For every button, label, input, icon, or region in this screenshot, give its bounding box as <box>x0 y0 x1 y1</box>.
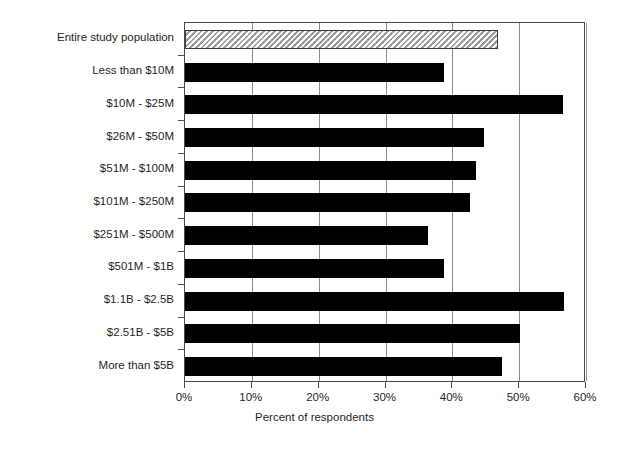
bar-row <box>185 318 584 351</box>
bar-entire-study-population <box>185 30 498 49</box>
category-label: Entire study population <box>0 32 174 44</box>
x-axis-tick-label: 20% <box>288 392 348 404</box>
bar-2-51b-5b <box>185 324 520 343</box>
x-axis-tick-label: 30% <box>355 392 415 404</box>
plot-area <box>184 22 585 382</box>
category-label: $101M - $250M <box>0 196 174 208</box>
x-axis-tick <box>251 382 252 388</box>
bar-row <box>185 23 584 56</box>
x-axis-tick-label: 60% <box>555 392 615 404</box>
bar-less-than-10m <box>185 63 444 82</box>
x-axis-tick-label: 50% <box>488 392 548 404</box>
bar-26m-50m <box>185 128 484 147</box>
x-axis-tick <box>585 382 586 388</box>
bar-chart-figure: Entire study populationLess than $10M$10… <box>0 0 629 452</box>
category-label: $251M - $500M <box>0 229 174 241</box>
gridline-60pct <box>586 23 587 381</box>
bar-row <box>185 285 584 318</box>
category-label: Less than $10M <box>0 65 174 77</box>
bar-more-than-5b <box>185 357 502 376</box>
x-axis-tick <box>184 382 185 388</box>
category-label: $501M - $1B <box>0 261 174 273</box>
bar-10m-25m <box>185 95 563 114</box>
bar-row <box>185 154 584 187</box>
bar-1-1b-2-5b <box>185 292 564 311</box>
category-label: $2.51B - $5B <box>0 327 174 339</box>
category-label: $10M - $25M <box>0 98 174 110</box>
bar-51m-100m <box>185 161 476 180</box>
bar-row <box>185 56 584 89</box>
x-axis-tick-label: 0% <box>154 392 214 404</box>
x-axis-tick <box>451 382 452 388</box>
bar-rows <box>185 23 584 381</box>
x-axis-tick <box>318 382 319 388</box>
x-axis-tick-label: 10% <box>221 392 281 404</box>
bar-row <box>185 187 584 220</box>
bar-row <box>185 350 584 383</box>
category-label: More than $5B <box>0 360 174 372</box>
bar-251m-500m <box>185 226 428 245</box>
category-label: $26M - $50M <box>0 131 174 143</box>
x-axis-tick <box>518 382 519 388</box>
category-label: $51M - $100M <box>0 163 174 175</box>
x-axis-tick-label: 40% <box>421 392 481 404</box>
bar-101m-250m <box>185 193 470 212</box>
bar-row <box>185 88 584 121</box>
x-axis-title: Percent of respondents <box>0 411 629 423</box>
bar-row <box>185 219 584 252</box>
category-label: $1.1B - $2.5B <box>0 294 174 306</box>
bar-row <box>185 121 584 154</box>
bar-row <box>185 252 584 285</box>
bar-501m-1b <box>185 259 444 278</box>
x-axis-tick <box>385 382 386 388</box>
